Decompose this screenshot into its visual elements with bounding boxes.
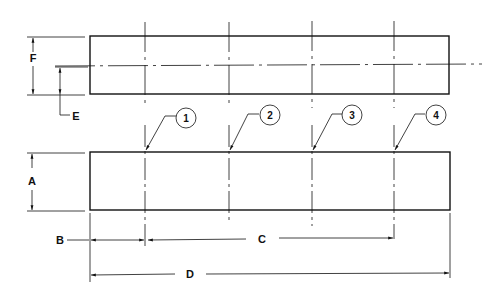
vertical-centerlines-front — [145, 125, 394, 246]
dimension-d — [91, 273, 449, 275]
top-view — [27, 21, 482, 115]
dimension-a-label: A — [28, 175, 36, 187]
callout-1-label: 1 — [183, 113, 189, 124]
horizontal-centerline — [55, 64, 482, 66]
callouts — [146, 105, 446, 150]
dimension-c-label: C — [258, 233, 266, 245]
dimension-d-label: D — [186, 268, 194, 280]
callout-2-label: 2 — [267, 110, 273, 121]
drawing-canvas: 1 2 3 4 F E A B C D — [0, 0, 501, 300]
dimension-e — [55, 67, 88, 115]
dimension-c — [148, 238, 393, 240]
dimension-e-label: E — [72, 110, 79, 122]
dimension-b-label: B — [56, 234, 64, 246]
callout-3-label: 3 — [349, 110, 355, 121]
front-view — [27, 125, 450, 282]
dimension-f-label: F — [30, 52, 37, 64]
front-view-outline — [90, 152, 450, 210]
callout-4-label: 4 — [433, 110, 439, 121]
